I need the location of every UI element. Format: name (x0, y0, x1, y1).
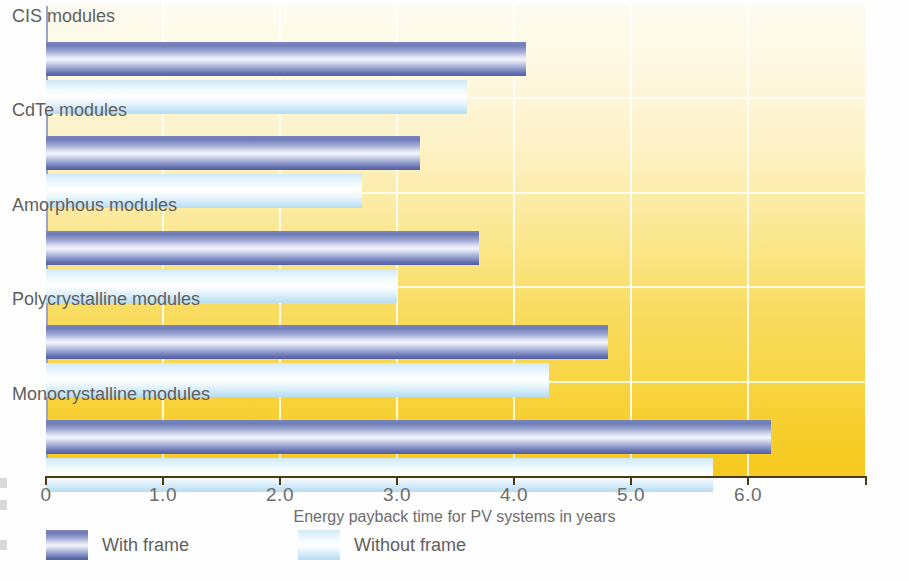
category-label: Monocrystalline modules (12, 384, 210, 405)
bar-with-frame (46, 42, 526, 76)
scan-edge-artifact (0, 478, 7, 488)
legend-item[interactable]: With frame (46, 530, 189, 560)
category-label: CdTe modules (12, 100, 127, 121)
category-label: Polycrystalline modules (12, 289, 200, 310)
legend-item[interactable]: Without frame (298, 530, 466, 560)
bar-group: CdTe modules (0, 98, 909, 192)
bar-with-frame (46, 325, 608, 359)
bar-with-frame (46, 231, 479, 265)
category-label: CIS modules (12, 6, 115, 27)
x-tick-label: 0 (40, 484, 51, 506)
legend-label: Without frame (354, 535, 466, 556)
scan-edge-artifact (0, 540, 7, 550)
chart-legend: With frameWithout frame (46, 530, 646, 570)
x-axis-line (46, 476, 867, 478)
x-tick-label: 2.0 (266, 484, 294, 506)
bar-group: CIS modules (0, 4, 909, 98)
x-tick-end (865, 476, 867, 485)
legend-swatch (46, 530, 88, 560)
x-axis-title: Energy payback time for PV systems in ye… (0, 508, 909, 526)
x-tick-label: 4.0 (500, 484, 528, 506)
bar-with-frame (46, 136, 420, 170)
x-tick-label: 5.0 (617, 484, 645, 506)
x-tick-label: 6.0 (734, 484, 762, 506)
legend-swatch (298, 530, 340, 560)
category-label: Amorphous modules (12, 195, 177, 216)
bar-with-frame (46, 420, 771, 454)
legend-label: With frame (102, 535, 189, 556)
x-tick-label: 3.0 (383, 484, 411, 506)
bar-group: Polycrystalline modules (0, 287, 909, 381)
x-tick-label: 1.0 (149, 484, 177, 506)
bar-group: Monocrystalline modules (0, 382, 909, 476)
chart-figure: CIS modulesCdTe modulesAmorphous modules… (0, 0, 909, 581)
bar-without-frame (46, 458, 713, 492)
bar-group: Amorphous modules (0, 193, 909, 287)
